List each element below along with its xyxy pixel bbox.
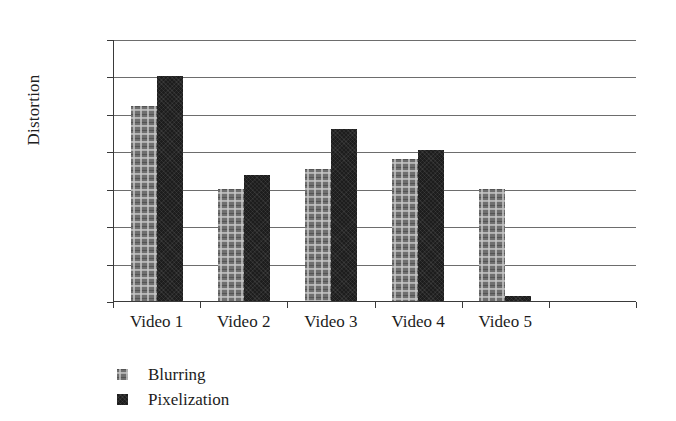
bar-blurring-video-4 xyxy=(392,159,418,301)
x-tick-mark xyxy=(375,302,376,308)
x-tick-label: Video 5 xyxy=(445,312,565,332)
gridline xyxy=(113,190,636,191)
y-axis-line xyxy=(113,40,114,302)
x-tick-mark xyxy=(636,302,637,308)
bar-blurring-video-3 xyxy=(305,169,331,301)
x-tick-mark xyxy=(113,302,114,308)
bar-chart-figure: Distortion 00.050.10.150.20.250.30.35 Vi… xyxy=(0,0,676,421)
bar-pixelization-video-2 xyxy=(244,175,270,301)
bar-pixelization-video-1 xyxy=(157,76,183,301)
x-axis-line xyxy=(113,301,636,302)
bar-blurring-video-5 xyxy=(479,189,505,301)
gridline xyxy=(113,115,636,116)
gridline xyxy=(113,265,636,266)
y-axis-title: Distortion xyxy=(24,25,44,195)
plot-area xyxy=(113,40,636,302)
chart-legend: BlurringPixelization xyxy=(117,362,229,412)
bar-pixelization-video-4 xyxy=(418,150,444,301)
legend-label: Pixelization xyxy=(148,390,229,410)
gridline xyxy=(113,40,636,41)
x-tick-mark xyxy=(200,302,201,308)
gridline xyxy=(113,152,636,153)
legend-label: Blurring xyxy=(148,365,206,385)
x-tick-mark xyxy=(287,302,288,308)
legend-swatch-pixelization xyxy=(117,394,128,405)
x-tick-mark xyxy=(462,302,463,308)
legend-swatch-blurring xyxy=(117,369,128,380)
gridline xyxy=(113,227,636,228)
legend-item: Pixelization xyxy=(117,387,229,412)
gridline xyxy=(113,77,636,78)
bar-pixelization-video-3 xyxy=(331,129,357,301)
x-tick-mark xyxy=(549,302,550,308)
legend-item: Blurring xyxy=(117,362,229,387)
bar-blurring-video-1 xyxy=(131,106,157,301)
bar-blurring-video-2 xyxy=(218,189,244,301)
